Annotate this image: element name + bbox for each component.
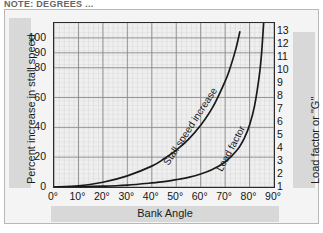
y2-tick-label: 4 [277, 142, 295, 152]
x-axis-label: Bank Angle [51, 207, 279, 219]
y2-tick-label: 2 [277, 168, 295, 178]
y-tick-label: 20 [20, 151, 46, 161]
y2-tick-label: 8 [277, 90, 295, 100]
x-tick-label: 60° [187, 191, 213, 201]
x-tick-label: 50° [162, 191, 188, 201]
y2-tick-label: 3 [277, 155, 295, 165]
chart-figure: Percent increase in stall speed Load fac… [4, 9, 319, 224]
x-tick-label: 30° [113, 191, 139, 201]
y-tick-label: 0 [20, 181, 46, 191]
x-tick-label: 0° [40, 191, 66, 201]
x-tick-label: 40° [138, 191, 164, 201]
y2-tick-label: 10 [277, 64, 295, 74]
x-tick-label: 70° [211, 191, 237, 201]
y2-axis-label: Load factor or "G" [309, 97, 321, 184]
x-tick-label: 90° [260, 191, 286, 201]
x-tick-label: 10° [64, 191, 90, 201]
y-tick-label: 100 [20, 32, 46, 42]
y2-tick-label: 6 [277, 116, 295, 126]
y2-tick-label: 9 [277, 77, 295, 87]
y2-tick-label: 7 [277, 103, 295, 113]
cropped-header-text: NOTE: DEGREES ... [4, 0, 164, 8]
y-tick-label: 80 [20, 62, 46, 72]
x-tick-label: 20° [89, 191, 115, 201]
y2-tick-label: 12 [277, 38, 295, 48]
y2-tick-label: 13 [277, 25, 295, 35]
y-tick-label: 60 [20, 92, 46, 102]
y2-tick-label: 5 [277, 129, 295, 139]
y-tick-label: 40 [20, 121, 46, 131]
y2-tick-label: 11 [277, 51, 295, 61]
x-tick-label: 80° [236, 191, 262, 201]
y-tick-label: 90 [20, 47, 46, 57]
